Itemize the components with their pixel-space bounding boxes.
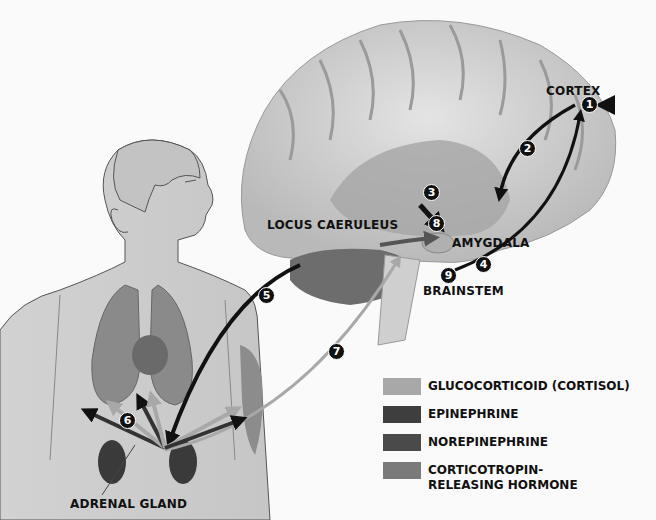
legend-item-glucocorticoid: GLUCOCORTICOID (CORTISOL) bbox=[383, 378, 630, 395]
label-amygdala: AMYGDALA bbox=[452, 236, 530, 250]
step-marker-5: 5 bbox=[258, 287, 275, 304]
legend: GLUCOCORTICOID (CORTISOL) EPINEPHRINE NO… bbox=[383, 378, 630, 504]
legend-label: GLUCOCORTICOID (CORTISOL) bbox=[428, 379, 630, 394]
step-marker-7: 7 bbox=[328, 343, 345, 360]
legend-item-crh: CORTICOTROPIN-RELEASING HORMONE bbox=[383, 462, 630, 493]
legend-swatch bbox=[383, 406, 421, 423]
step-marker-1: 1 bbox=[581, 96, 598, 113]
legend-item-epinephrine: EPINEPHRINE bbox=[383, 406, 630, 423]
legend-item-norepinephrine: NOREPINEPHRINE bbox=[383, 434, 630, 451]
step-marker-2: 2 bbox=[519, 140, 536, 157]
label-locus-caeruleus: LOCUS CAERULEUS bbox=[267, 218, 398, 232]
step-marker-9: 9 bbox=[440, 267, 457, 284]
step-marker-4: 4 bbox=[475, 256, 492, 273]
human-figure bbox=[0, 140, 270, 520]
step-marker-6: 6 bbox=[119, 412, 136, 429]
label-adrenal-gland: ADRENAL GLAND bbox=[70, 497, 187, 511]
legend-label: NOREPINEPHRINE bbox=[428, 435, 548, 450]
legend-label: CORTICOTROPIN-RELEASING HORMONE bbox=[428, 463, 598, 493]
legend-label: EPINEPHRINE bbox=[428, 407, 518, 422]
label-brainstem: BRAINSTEM bbox=[423, 284, 504, 298]
step-marker-3: 3 bbox=[423, 184, 440, 201]
legend-swatch bbox=[383, 378, 421, 395]
stress-pathway-diagram: CORTEX AMYGDALA LOCUS CAERULEUS BRAINSTE… bbox=[0, 0, 656, 520]
legend-swatch bbox=[383, 462, 421, 479]
legend-swatch bbox=[383, 434, 421, 451]
step-marker-8: 8 bbox=[428, 215, 445, 232]
